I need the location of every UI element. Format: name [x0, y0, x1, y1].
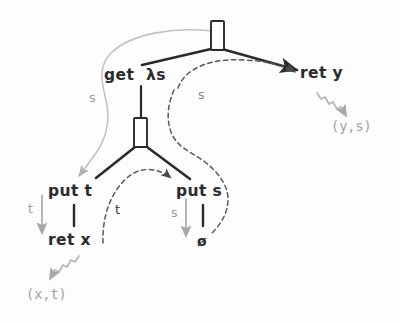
term-lambda-s: λs [146, 68, 166, 84]
flow-label-state-s-gray: s [171, 207, 178, 220]
edge-inner-to-put-t [96, 147, 135, 178]
edge-inner-to-put-s [147, 147, 190, 179]
flow-label-state-mid: s [198, 89, 205, 102]
result-label-right: (y,s) [331, 120, 372, 134]
inner-bar-node[interactable] [134, 118, 147, 147]
flow-label-thread-t-gray: t [28, 203, 33, 216]
root-bar-node[interactable] [211, 21, 224, 50]
dashed-curve-ret-x-to-put-s [103, 170, 171, 243]
term-put-s: put s [176, 184, 222, 200]
diagram-canvas [0, 0, 400, 322]
edge-root-to-get [142, 49, 211, 65]
term-empty-set: ø [197, 234, 207, 248]
term-put-t: put t [48, 184, 92, 200]
gray-down-arrows [42, 195, 186, 234]
term-ret-y: ret y [300, 66, 343, 82]
result-label-left: (x,t) [26, 288, 67, 302]
dashed-curve-t-group [103, 170, 171, 243]
squiggle-arrow-left [51, 256, 79, 277]
squiggle-arrow-right [317, 93, 345, 114]
flow-label-thread-t-dashed: t [115, 203, 120, 216]
effect-tree-diagram: get λs ret y put t ret x put s ø s s t t… [0, 0, 400, 322]
term-get: get [104, 68, 134, 84]
term-ret-x: ret x [48, 233, 91, 249]
flow-label-state-in: s [89, 92, 96, 105]
